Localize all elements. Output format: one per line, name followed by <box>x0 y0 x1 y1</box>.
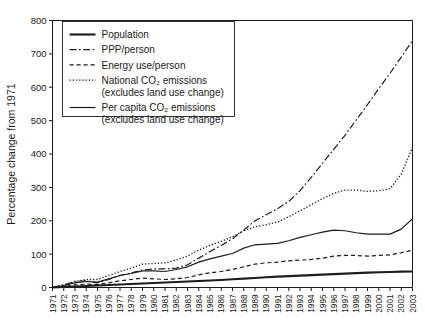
y-tick-label: 600 <box>31 82 47 93</box>
x-tick-label: 1984 <box>195 294 204 313</box>
line-chart: 0100200300400500600700800Percentage chan… <box>0 0 425 332</box>
x-tick-label: 2002 <box>397 294 406 313</box>
series-line-4 <box>53 219 413 288</box>
y-tick-label: 700 <box>31 48 47 59</box>
x-tick-label: 1996 <box>330 294 339 313</box>
x-tick-label: 1989 <box>251 294 260 313</box>
legend-label-1: PPP/person <box>102 44 155 55</box>
x-tick-label: 1992 <box>285 294 294 313</box>
x-tick-label: 1993 <box>296 294 305 313</box>
x-tick-label: 1975 <box>94 294 103 313</box>
y-axis-title: Percentage change from 1971 <box>5 83 17 224</box>
x-tick-label: 1973 <box>71 294 80 313</box>
x-tick-label: 1983 <box>184 294 193 313</box>
x-tick-label: 1991 <box>274 294 283 313</box>
legend-label-4: Per capita CO₂ emissions <box>102 102 216 113</box>
x-tick-label: 1988 <box>240 294 249 313</box>
x-tick-label: 1999 <box>364 294 373 313</box>
x-tick-label: 2000 <box>375 294 384 313</box>
y-tick-label: 800 <box>31 15 47 26</box>
x-tick-label: 1978 <box>127 294 136 313</box>
x-tick-label: 2003 <box>409 294 418 313</box>
y-tick-label: 300 <box>31 182 47 193</box>
x-tick-label: 1982 <box>172 294 181 313</box>
series-line-3 <box>53 147 413 287</box>
x-tick-label: 1990 <box>262 294 271 313</box>
x-tick-label: 1980 <box>150 294 159 313</box>
x-tick-label: 1976 <box>105 294 114 313</box>
x-tick-label: 2001 <box>386 294 395 313</box>
y-tick-label: 400 <box>31 148 47 159</box>
x-tick-label: 1971 <box>49 294 58 313</box>
x-tick-label: 1986 <box>217 294 226 313</box>
legend-label-3: National CO₂ emissions <box>102 75 208 86</box>
x-tick-label: 1972 <box>60 294 69 313</box>
x-tick-label: 1998 <box>352 294 361 313</box>
y-tick-label: 0 <box>41 282 46 293</box>
x-tick-label: 1979 <box>139 294 148 313</box>
chart-figure: 0100200300400500600700800Percentage chan… <box>0 0 425 332</box>
y-tick-label: 200 <box>31 215 47 226</box>
x-tick-label: 1981 <box>161 294 170 313</box>
legend: PopulationPPP/personEnergy use/personNat… <box>63 22 235 126</box>
legend-sublabel-3: (excludes land use change) <box>102 87 224 98</box>
legend-label-0: Population <box>102 29 149 40</box>
legend-label-2: Energy use/person <box>102 60 186 71</box>
y-tick-label: 100 <box>31 249 47 260</box>
x-tick-label: 1977 <box>116 294 125 313</box>
legend-sublabel-4: (excludes land use change) <box>102 114 224 125</box>
x-tick-label: 1974 <box>82 294 91 313</box>
x-tick-label: 1995 <box>319 294 328 313</box>
x-tick-label: 1987 <box>229 294 238 313</box>
x-tick-label: 1997 <box>341 294 350 313</box>
series-line-2 <box>53 250 413 287</box>
y-tick-label: 500 <box>31 115 47 126</box>
x-tick-label: 1994 <box>307 294 316 313</box>
x-tick-label: 1985 <box>206 294 215 313</box>
